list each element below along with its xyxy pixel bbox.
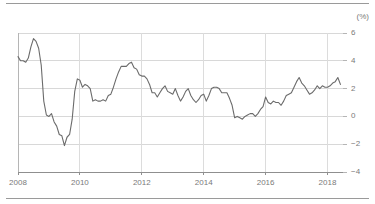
y-axis-tick-label: 0	[351, 111, 355, 120]
inflation-rate-series-line	[18, 39, 340, 146]
screenshot-root: (%) 6420−2−4 200820102012201420162018	[0, 0, 375, 204]
x-axis-tick-label: 2018	[311, 178, 345, 187]
x-axis-tick-label: 2008	[1, 178, 35, 187]
y-axis-tick-label: −2	[351, 139, 360, 148]
y-axis-tick-label: 6	[351, 28, 355, 37]
horizontal-gridlines	[18, 33, 343, 172]
chart-plot-svg	[0, 0, 375, 204]
x-axis-tick-label: 2010	[63, 178, 97, 187]
x-axis-tick-label: 2016	[249, 178, 283, 187]
axis-lines	[18, 33, 343, 172]
y-axis-tick-label: 2	[351, 84, 355, 93]
y-axis-tick-label: −4	[351, 167, 360, 176]
vertical-gridlines	[18, 33, 328, 172]
axis-tick-marks	[18, 33, 347, 175]
bottom-divider-rule	[6, 198, 369, 199]
y-axis-unit-label: (%)	[357, 12, 369, 21]
y-axis-tick-label: 4	[351, 56, 355, 65]
inflation-rate-line-chart: (%) 6420−2−4 200820102012201420162018	[0, 0, 375, 204]
x-axis-tick-label: 2014	[187, 178, 221, 187]
x-axis-tick-label: 2012	[125, 178, 159, 187]
